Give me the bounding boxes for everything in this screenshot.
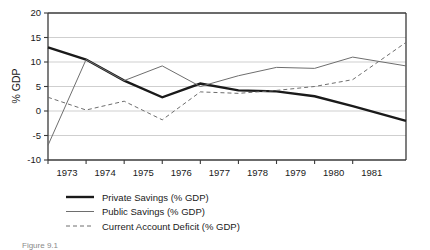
x-tick-label: 1975	[133, 167, 154, 178]
x-tick-label: 1979	[285, 167, 306, 178]
figure-caption: Figure 9.1	[22, 241, 59, 250]
x-tick-label: 1974	[95, 167, 116, 178]
x-tick-label: 1977	[209, 167, 230, 178]
y-tick-label: 5	[36, 81, 41, 92]
x-tick-label: 1981	[361, 167, 382, 178]
x-tick-label: 1973	[56, 167, 77, 178]
legend-label: Public Savings (% GDP)	[102, 206, 205, 217]
x-axis-ticks: 197319741975197619771978197919801981	[48, 160, 382, 178]
x-tick-label: 1976	[171, 167, 192, 178]
chart-legend: Private Savings (% GDP)Public Savings (%…	[66, 192, 240, 232]
x-tick-label: 1980	[323, 167, 344, 178]
legend-label: Private Savings (% GDP)	[102, 192, 209, 203]
y-tick-label: 0	[36, 105, 41, 116]
legend-label: Current Account Deficit (% GDP)	[102, 221, 240, 232]
x-tick-label: 1978	[247, 167, 268, 178]
y-tick-label: 10	[30, 56, 41, 67]
y-tick-label: -10	[27, 154, 41, 165]
y-axis-ticks: -10-505101520	[27, 7, 48, 165]
y-axis-title: % GDP	[10, 68, 22, 103]
y-tick-label: 20	[30, 7, 41, 18]
figure-container: -10-505101520 19731974197519761977197819…	[0, 0, 430, 250]
line-chart: -10-505101520 19731974197519761977197819…	[0, 0, 430, 250]
y-tick-label: 15	[30, 32, 41, 43]
y-tick-label: -5	[33, 130, 41, 141]
